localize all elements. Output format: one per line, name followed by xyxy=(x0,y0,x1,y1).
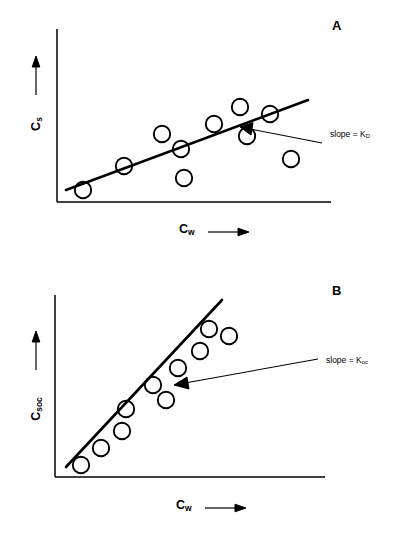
panel-a: A Cs xyxy=(0,0,393,271)
panel-b: B Csoc xyxy=(0,271,393,542)
panel-b-x-axis-arrow-icon xyxy=(0,271,393,542)
panel-a-x-axis-arrow-icon xyxy=(0,0,393,271)
two-panel-scatter-figure: A Cs xyxy=(0,0,393,542)
